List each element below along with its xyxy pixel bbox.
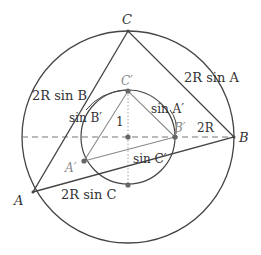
point-c-prime [125, 88, 130, 93]
label-side-a: 2R sin A [184, 70, 240, 85]
point-bottom [125, 182, 130, 187]
label-side-b: 2R sin B [32, 88, 87, 103]
point-center [125, 134, 130, 139]
label-c-prime: C′ [121, 74, 133, 88]
label-side-c-prime: sin C′ [133, 152, 167, 166]
label-radius-outer: 2R [197, 121, 215, 135]
point-a [32, 191, 35, 194]
label-c: C [122, 12, 132, 27]
label-a: A [13, 193, 23, 208]
triangle-diagram: C B A C′ B′ A′ 2R sin B 2R sin A 2R sin … [0, 0, 261, 255]
label-a-prime: A′ [64, 161, 77, 175]
point-b [233, 136, 236, 139]
label-side-c: 2R sin C [61, 187, 117, 202]
point-b-prime [172, 134, 177, 139]
label-side-a-prime: sin A′ [151, 102, 184, 116]
point-c [127, 30, 130, 33]
triangle-abc [33, 31, 234, 192]
label-b: B [238, 130, 249, 145]
point-a-prime [81, 158, 86, 163]
label-side-b-prime: sin B′ [69, 111, 102, 125]
label-radius-inner: 1 [116, 115, 124, 129]
label-b-prime: B′ [173, 121, 186, 135]
